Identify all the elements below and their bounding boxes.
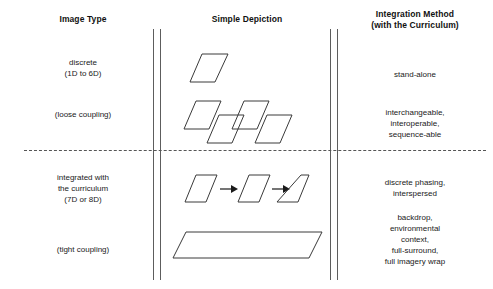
left-divider-line-outer <box>153 29 154 280</box>
row-4-image-type-line1: (tight coupling) <box>18 244 148 255</box>
row-1-image-type: discrete (1D to 6D) <box>18 57 148 79</box>
row-1-integration: stand-alone <box>342 69 488 80</box>
row-4-integration-line5: full imagery wrap <box>342 256 488 267</box>
row-4-integration-line1: backdrop, <box>342 212 488 223</box>
row-1-integration-line1: stand-alone <box>342 69 488 80</box>
parallelogram-icon <box>173 232 322 258</box>
parallelogram-icon <box>255 115 292 143</box>
column-header-integration-line1: Integration Method <box>342 9 488 20</box>
right-divider-line-inner <box>330 29 331 280</box>
row-4-integration: backdrop, environmental context, full-su… <box>342 212 488 267</box>
column-header-image-type: Image Type <box>18 14 148 25</box>
right-divider-line-outer <box>337 29 338 280</box>
parallelogram-icon <box>190 54 228 82</box>
row-2-integration: interchangeable, interoperable, sequence… <box>342 107 488 140</box>
row-2-depiction-staggered-parallelograms <box>183 98 308 148</box>
parallelogram-icon <box>184 101 221 129</box>
diagram-canvas: Image Type Simple Depiction Integration … <box>0 0 493 289</box>
row-3-integration: discrete phasing, interspersed <box>342 177 488 199</box>
row-4-image-type: (tight coupling) <box>18 244 148 255</box>
column-header-integration-line2: (with the Curriculum) <box>342 20 488 31</box>
arrow-right-icon <box>220 185 238 193</box>
row-2-image-type-line1: (loose coupling) <box>18 109 148 120</box>
row-2-integration-line3: sequence-able <box>342 129 488 140</box>
row-3-image-type-line2: the curriculum <box>18 183 148 194</box>
row-1-image-type-line2: (1D to 6D) <box>18 68 148 79</box>
row-3-integration-line2: interspersed <box>342 188 488 199</box>
row-3-image-type: integrated with the curriculum (7D or 8D… <box>18 172 148 205</box>
parallelogram-icon <box>238 175 270 202</box>
parallelogram-icon <box>185 175 217 202</box>
parallelogram-icon <box>232 101 269 129</box>
column-header-integration-method: Integration Method (with the Curriculum) <box>342 9 488 31</box>
row-4-integration-line2: environmental <box>342 223 488 234</box>
row-3-integration-line1: discrete phasing, <box>342 177 488 188</box>
row-2-integration-line1: interchangeable, <box>342 107 488 118</box>
row-4-depiction-wide-parallelogram <box>170 228 325 262</box>
column-header-simple-depiction: Simple Depiction <box>172 14 322 25</box>
row-2-integration-line2: interoperable, <box>342 118 488 129</box>
row-4-integration-line4: full-surround, <box>342 245 488 256</box>
row-4-integration-line3: context, <box>342 234 488 245</box>
row-3-depiction-parallelogram-chain <box>182 172 312 206</box>
row-3-image-type-line3: (7D or 8D) <box>18 194 148 205</box>
left-divider-line-inner <box>160 29 161 280</box>
row-3-image-type-line1: integrated with <box>18 172 148 183</box>
row-1-depiction-single-parallelogram <box>188 48 238 88</box>
horizontal-dashed-separator <box>24 150 486 151</box>
row-1-image-type-line1: discrete <box>18 57 148 68</box>
row-2-image-type: (loose coupling) <box>18 109 148 120</box>
arrow-right-icon <box>272 185 290 193</box>
